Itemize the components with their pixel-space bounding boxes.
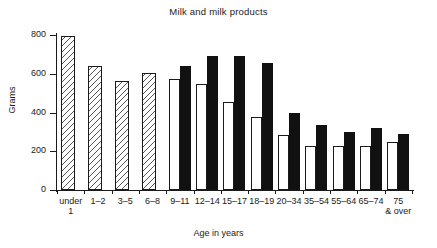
bar-white xyxy=(278,135,289,190)
x-tick-mark xyxy=(166,190,167,194)
bar-black xyxy=(207,56,218,190)
y-tick-mark xyxy=(50,35,56,36)
x-tick-mark xyxy=(194,190,195,194)
y-tick-mark xyxy=(50,190,56,191)
x-tick-mark xyxy=(303,190,304,194)
y-tick-label: 0 xyxy=(4,184,46,194)
y-tick-label: 200 xyxy=(4,145,46,155)
y-tick-label: 400 xyxy=(4,107,46,117)
bar-group xyxy=(57,35,412,190)
chart-figure: Milk and milk products Grams 02004006008… xyxy=(0,0,437,248)
bar-black xyxy=(234,56,245,190)
x-tick-mark xyxy=(221,190,222,194)
x-tick-mark xyxy=(112,190,113,194)
x-tick-mark xyxy=(412,190,413,194)
bar-hatched xyxy=(142,73,156,190)
bar-hatched xyxy=(115,81,129,190)
x-tick-mark xyxy=(385,190,386,194)
x-tick-mark xyxy=(357,190,358,194)
bar-white xyxy=(305,146,316,190)
y-tick-mark xyxy=(50,113,56,114)
x-tick-mark xyxy=(248,190,249,194)
x-axis-line xyxy=(56,190,414,191)
bar-white xyxy=(196,84,207,190)
bar-black xyxy=(371,128,382,190)
bar-black xyxy=(316,125,327,190)
chart-title: Milk and milk products xyxy=(0,6,437,17)
bar-black xyxy=(289,113,300,191)
bar-hatched xyxy=(88,66,102,190)
x-tick-mark xyxy=(139,190,140,194)
bar-white xyxy=(333,146,344,190)
y-tick-label: 600 xyxy=(4,68,46,78)
bar-black xyxy=(398,134,409,190)
x-tick-mark xyxy=(57,190,58,194)
bar-black xyxy=(180,66,191,190)
bar-white xyxy=(251,117,262,190)
x-axis-label: Age in years xyxy=(0,228,437,238)
x-tick-mark xyxy=(275,190,276,194)
x-tick-mark xyxy=(330,190,331,194)
y-tick-mark xyxy=(50,74,56,75)
plot-area xyxy=(57,35,412,190)
x-category-label: 75& over xyxy=(376,196,420,216)
bar-hatched xyxy=(61,36,75,190)
x-tick-mark xyxy=(84,190,85,194)
y-tick-mark xyxy=(50,151,56,152)
bar-white xyxy=(360,146,371,190)
bar-white xyxy=(387,142,398,190)
y-tick-label: 800 xyxy=(4,29,46,39)
bar-white xyxy=(223,102,234,190)
bar-black xyxy=(344,132,355,191)
bar-white xyxy=(169,79,180,190)
bar-black xyxy=(262,63,273,190)
